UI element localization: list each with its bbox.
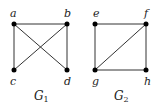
- vertex-d: [65, 68, 70, 73]
- vertex-label-b: b: [64, 7, 71, 20]
- graph-label-g1: G1: [34, 89, 49, 104]
- vertex-label-g: g: [92, 75, 99, 88]
- vertex-g: [93, 68, 98, 73]
- vertex-f: [144, 22, 149, 27]
- graph-subscript-g1: 1: [44, 95, 49, 104]
- vertex-label-e: e: [93, 7, 100, 20]
- vertex-a: [12, 22, 17, 27]
- graph-name-g1: G: [34, 89, 44, 103]
- vertex-label-h: h: [144, 75, 151, 88]
- vertex-label-a: a: [10, 7, 17, 20]
- edge-f-g: [95, 24, 146, 70]
- vertex-label-f: f: [143, 7, 150, 20]
- vertex-b: [65, 22, 70, 27]
- vertex-label-c: c: [10, 75, 16, 88]
- graph-name-g2: G: [114, 89, 124, 103]
- graph-g2-edges: [95, 24, 146, 70]
- graph-subscript-g2: 2: [124, 95, 129, 104]
- vertex-e: [93, 22, 98, 27]
- vertex-c: [12, 68, 17, 73]
- vertex-h: [144, 68, 149, 73]
- graph-g1-edges: [14, 24, 67, 70]
- graph-figure: a b c d G1 e f g h G2: [0, 0, 160, 108]
- graph-label-g2: G2: [114, 89, 129, 104]
- vertex-label-d: d: [64, 75, 71, 88]
